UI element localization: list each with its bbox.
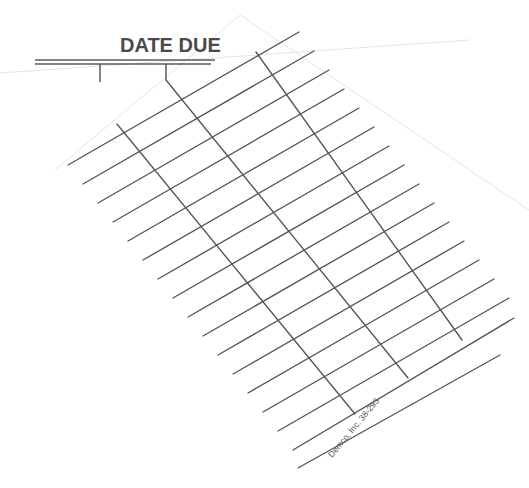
- paper-background: [0, 0, 529, 488]
- card-title: DATE DUE: [120, 34, 221, 56]
- date-due-card: DATE DUE Demco, Inc. 38-293: [0, 0, 529, 488]
